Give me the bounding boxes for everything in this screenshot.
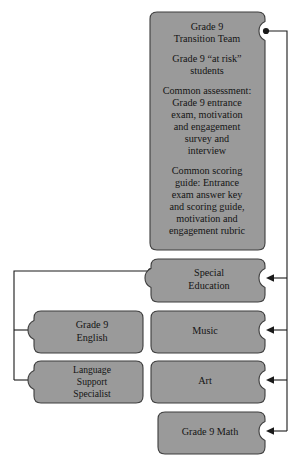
node-line: motivation and (176, 213, 237, 224)
node-line: Special (194, 267, 224, 278)
connector-transition-team-trunk (263, 28, 287, 431)
arrowheads-right-column (266, 274, 274, 435)
node-line: English (76, 332, 107, 343)
node-grade-9-transition-team[interactable]: Grade 9 Transition Team Grade 9 “at risk… (150, 12, 265, 250)
node-line: Common assessment: (163, 85, 252, 96)
node-line: exam, motivation (171, 109, 242, 120)
node-line: Grade 9 (191, 21, 224, 32)
node-music[interactable]: Music (151, 311, 265, 353)
node-line: engagement rubric (169, 225, 246, 236)
node-grade-9-math[interactable]: Grade 9 Math (158, 412, 265, 454)
node-special-education[interactable]: Special Education (145, 259, 265, 302)
node-line: Art (198, 375, 212, 386)
node-line: Grade 9 Math (182, 426, 239, 437)
node-grade-9-english[interactable]: Grade 9 English (28, 311, 143, 353)
node-line: Common scoring (172, 165, 242, 176)
node-language-support-specialist[interactable]: Language Support Specialist (28, 361, 143, 403)
connector-origin-dot (263, 28, 269, 34)
node-line: Music (192, 325, 218, 336)
node-line: interview (188, 145, 227, 156)
node-line: Grade 9 (76, 319, 109, 330)
node-line: Specialist (73, 388, 111, 399)
node-line: Support (77, 376, 108, 387)
node-line: Transition Team (174, 33, 240, 44)
transition-team-diagram: Grade 9 Transition Team Grade 9 “at risk… (0, 0, 295, 474)
node-art[interactable]: Art (151, 361, 265, 403)
node-line: Grade 9 “at risk” (172, 53, 242, 64)
node-line: exam answer key (172, 189, 244, 200)
node-line: survey and (185, 133, 229, 144)
node-line: and engagement (174, 121, 241, 132)
node-line: Language (73, 364, 111, 375)
node-line: students (190, 65, 223, 76)
node-line: Education (188, 280, 229, 291)
node-line: guide: Entrance (175, 177, 240, 188)
node-line: Grade 9 entrance (172, 97, 242, 108)
node-line: and scoring guide, (170, 201, 245, 212)
